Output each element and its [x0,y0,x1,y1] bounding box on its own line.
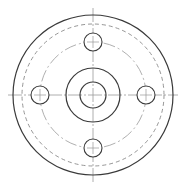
flange-drawing [0,0,188,189]
